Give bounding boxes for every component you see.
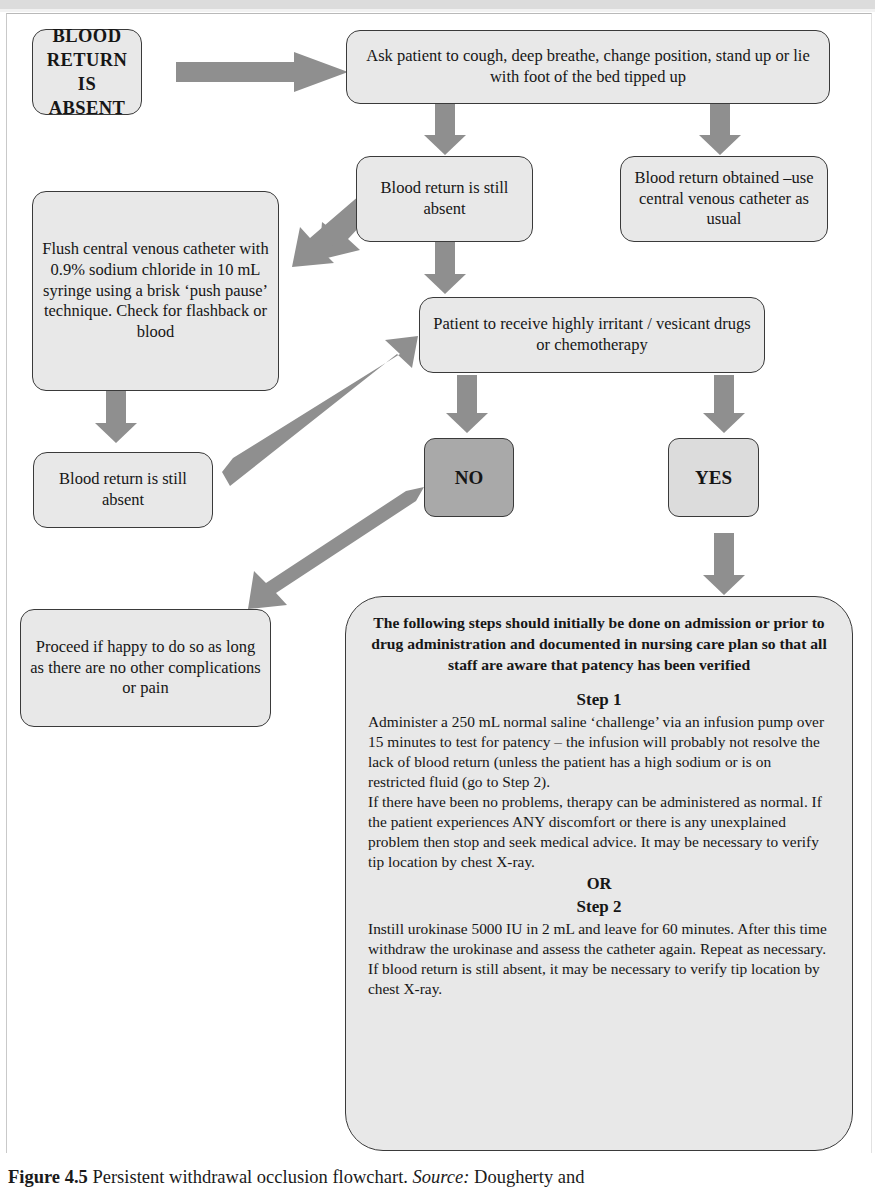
arrow-flush-to-still-absent-2 [95, 391, 137, 443]
decision-no-node[interactable]: NO [424, 438, 514, 517]
figure-page: BLOOD RETURN IS ABSENT Ask patient to co… [0, 0, 875, 1196]
arrow-irritant-to-no [446, 375, 488, 433]
figure-caption-text: Persistent withdrawal occlusion flowchar… [88, 1167, 413, 1187]
scan-artifact-bar [0, 0, 875, 9]
figure-caption-source-label: Source: [413, 1167, 470, 1187]
figure-caption-label: Figure 4.5 [8, 1167, 88, 1187]
arrow-irritant-to-yes [703, 375, 745, 433]
blood-return-absent-node[interactable]: BLOOD RETURN IS ABSENT [32, 29, 142, 115]
steps-intro-text: The following steps should initially be … [368, 613, 830, 676]
step-2-heading: Step 2 [368, 896, 830, 918]
scan-artifact-bar-secondary [0, 9, 875, 12]
flush-central-venous-catheter-node[interactable]: Flush central venous catheter with 0.9% … [32, 191, 279, 391]
patient-to-receive-irritant-drugs-node[interactable]: Patient to receive highly irritant / ves… [419, 297, 765, 373]
step-1-paragraph-2: If there have been no problems, therapy … [368, 792, 830, 872]
step-1-paragraph-1: Administer a 250 mL normal saline ‘chall… [368, 712, 830, 792]
ask-patient-to-cough-node[interactable]: Ask patient to cough, deep breathe, chan… [346, 30, 830, 104]
step-1-heading: Step 1 [368, 689, 830, 711]
arrow-start-to-cough [176, 52, 348, 92]
step-2-paragraph-1: Instill urokinase 5000 IU in 2 mL and le… [368, 919, 830, 999]
arrow-no-to-proceed [248, 487, 424, 609]
decision-yes-node[interactable]: YES [668, 438, 759, 517]
proceed-if-happy-node[interactable]: Proceed if happy to do so as long as the… [20, 609, 271, 727]
or-heading: OR [368, 873, 830, 894]
figure-caption-source-text: Dougherty and [469, 1167, 584, 1187]
arrow-cough-to-still-absent-1 [424, 103, 466, 155]
blood-return-still-absent-node-1[interactable]: Blood return is still absent [356, 156, 533, 242]
arrow-still-absent-1-to-irritant [424, 241, 466, 294]
figure-caption: Figure 4.5 Persistent withdrawal occlusi… [8, 1166, 868, 1189]
steps-detail-node[interactable]: The following steps should initially be … [345, 596, 853, 1151]
blood-return-obtained-node[interactable]: Blood return obtained –use central venou… [620, 156, 828, 242]
blood-return-still-absent-node-2[interactable]: Blood return is still absent [33, 452, 213, 528]
arrow-cough-to-obtained [699, 103, 741, 155]
arrow-yes-to-steps [703, 533, 745, 595]
